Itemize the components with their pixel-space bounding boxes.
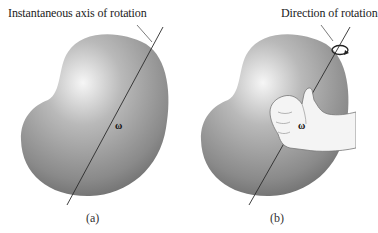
omega-label: ω [115,120,122,131]
panel-b: Direction of rotation ω (b) [178,0,356,233]
rotation-arrow-icon [332,46,349,56]
leader-line [321,25,333,41]
axis-label: Instantaneous axis of rotation [8,6,147,21]
omega-label: ω [298,120,305,131]
leader-line [137,25,152,42]
rigid-body-diagram-a [0,0,178,233]
caption-b: (b) [270,211,284,226]
caption-a: (a) [86,211,99,226]
rigid-body-diagram-b [178,0,356,233]
direction-label: Direction of rotation [281,6,378,21]
panel-a: Instantaneous axis of rotation ω (a) [0,0,178,233]
